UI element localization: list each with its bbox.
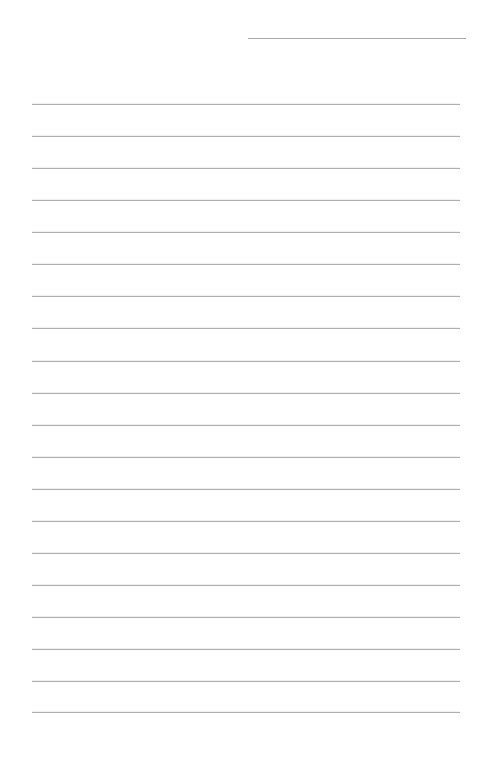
rule-line	[32, 425, 460, 426]
rule-line	[32, 681, 460, 682]
rule-line	[32, 232, 460, 233]
rule-line	[32, 168, 460, 169]
rule-line	[32, 104, 460, 105]
rule-line	[32, 296, 460, 297]
rule-line	[32, 585, 460, 586]
rule-line	[32, 553, 460, 554]
ruled-lines-area	[0, 0, 480, 757]
rule-line	[32, 521, 460, 522]
lined-note-page	[0, 0, 480, 757]
rule-line	[32, 649, 460, 650]
rule-line	[32, 457, 460, 458]
rule-line	[32, 200, 460, 201]
rule-line	[32, 264, 460, 265]
rule-line	[32, 361, 460, 362]
rule-line	[32, 617, 460, 618]
rule-line	[32, 712, 460, 713]
rule-line	[32, 489, 460, 490]
rule-line	[32, 328, 460, 329]
rule-line	[32, 136, 460, 137]
rule-line	[32, 393, 460, 394]
